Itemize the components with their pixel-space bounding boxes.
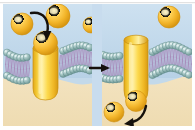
lipid-head [23,54,30,61]
diagram-canvas [0,0,195,130]
solute-molecule [46,4,70,28]
lipid-head [116,52,123,59]
lipid-head [185,71,192,78]
membrane-transport-figure: Carrier-mediated membrane transport Two-… [0,0,195,130]
lipid-head [23,77,30,84]
carrier-highlight-right [129,42,132,94]
carrier-body-left [33,48,58,100]
solute-emerging-right [126,91,147,112]
carrier-mouth-right [124,35,148,45]
lipid-head [185,48,192,55]
solute-molecule [158,6,180,28]
lipid-head [116,75,123,82]
panel-divider [92,4,102,128]
solute-released-right [104,102,124,122]
carrier-highlight-left [39,50,42,94]
solute-molecule [11,13,33,35]
